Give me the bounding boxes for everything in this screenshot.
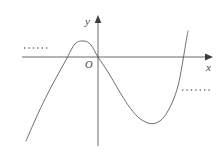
x-axis-arrow-icon	[205, 54, 213, 61]
x-axis-label: x	[206, 62, 211, 73]
graph-canvas	[0, 0, 222, 154]
function-graph-figure: y x O	[0, 0, 222, 154]
cubic-curve	[26, 31, 188, 141]
y-axis-label: y	[85, 16, 90, 27]
origin-label: O	[85, 60, 93, 71]
y-axis-arrow-icon	[95, 15, 102, 23]
